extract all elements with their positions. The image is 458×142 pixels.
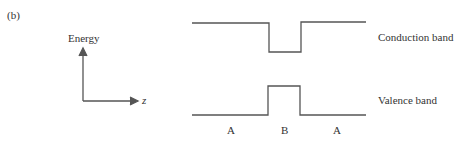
band-diagram (0, 0, 458, 142)
valence-band-label: Valence band (378, 95, 437, 106)
valence-band-line (192, 86, 366, 115)
arrow-up-icon (79, 48, 87, 56)
axes (79, 48, 138, 105)
arrow-right-icon (130, 97, 138, 105)
conduction-band-label: Conduction band (378, 32, 453, 43)
region-label-b: B (281, 125, 288, 136)
conduction-band-line (192, 22, 366, 52)
z-axis-label: z (142, 95, 146, 106)
region-label-a-right: A (333, 125, 341, 136)
region-label-a-left: A (227, 125, 235, 136)
energy-axis-label: Energy (68, 33, 100, 44)
